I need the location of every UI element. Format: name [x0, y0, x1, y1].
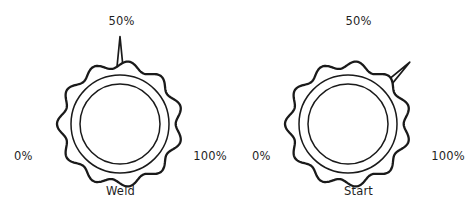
knob-graphic-start[interactable] [238, 0, 475, 211]
knob-scale-max-label-weld: 100% [193, 151, 227, 163]
knob-scale-min-label-weld: 0% [14, 151, 33, 163]
knob-figure-weld[interactable]: 50% 0% 100% Weld [0, 0, 237, 211]
knob-scale-mid-label-start: 50% [238, 16, 475, 28]
knob-outer-scallop-start [285, 62, 409, 187]
knob-scale-mid-label-weld: 50% [0, 16, 240, 28]
knob-outer-scallop-weld [57, 62, 181, 187]
knob-figure-start[interactable]: 50% 0% 100% Start [238, 0, 475, 211]
knob-diagram: 50% 0% 100% Weld 50% 0% 100% Start [0, 0, 475, 211]
knob-name-label-start: Start [238, 186, 475, 198]
knob-name-label-weld: Weld [0, 186, 239, 198]
knob-scale-max-label-start: 100% [431, 151, 465, 163]
knob-scale-min-label-start: 0% [252, 151, 271, 163]
knob-graphic-weld[interactable] [0, 0, 237, 211]
